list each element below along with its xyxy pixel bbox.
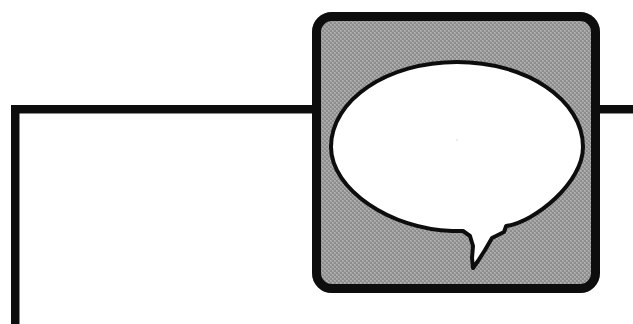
speech-bubble-artwork <box>0 0 633 324</box>
graphic-canvas: Black and white speech balloon symbol in… <box>0 0 633 324</box>
frame-vertical-rule <box>11 105 20 324</box>
scan-speck <box>456 139 458 141</box>
